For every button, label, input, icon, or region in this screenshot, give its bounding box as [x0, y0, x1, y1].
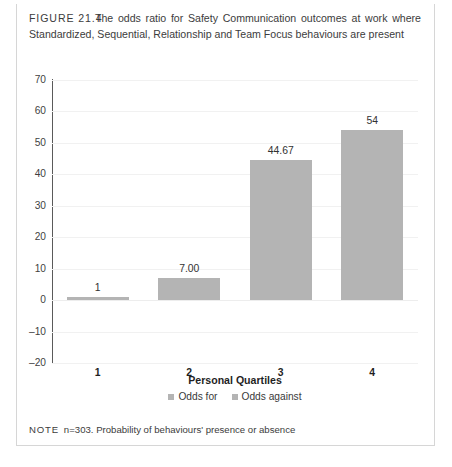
legend-item[interactable]: Odds for — [168, 391, 217, 402]
y-axis-tick-label: –10 — [12, 327, 46, 337]
x-axis-title: Personal Quartiles — [52, 374, 418, 386]
figure-frame-right-border — [434, 4, 435, 445]
gridline — [52, 111, 418, 112]
bar — [158, 278, 220, 300]
y-axis-tick-label: 30 — [12, 201, 46, 211]
plot-area: 17.0044.6754 — [52, 80, 418, 363]
legend-swatch-icon — [168, 394, 174, 400]
y-axis-tick-label: 10 — [12, 264, 46, 274]
legend-swatch-icon — [232, 394, 238, 400]
figure-note: NOTEn=303. Probability of behaviours' pr… — [29, 423, 421, 437]
bar — [341, 130, 403, 300]
legend-item[interactable]: Odds against — [232, 391, 302, 402]
gridline — [52, 80, 418, 81]
gridline — [52, 332, 418, 333]
gridline — [52, 363, 418, 364]
bar-value-label: 54 — [332, 116, 412, 126]
legend-label: Odds for — [178, 391, 217, 402]
y-axis-tick-label: 20 — [12, 232, 46, 242]
y-axis-tick-label: –20 — [12, 358, 46, 368]
y-axis-tick-label: 50 — [12, 138, 46, 148]
y-axis-tick-label: 60 — [12, 106, 46, 116]
y-axis-tick-labels: 706050403020100–10–20 — [10, 80, 46, 363]
y-axis-tick-label: 40 — [12, 169, 46, 179]
y-axis-tick-label: 70 — [12, 75, 46, 85]
bar-value-label: 7.00 — [149, 264, 229, 274]
legend-label: Odds against — [242, 391, 302, 402]
y-axis-tick-label: 0 — [12, 295, 46, 305]
bar — [250, 160, 312, 300]
bar-value-label: 1 — [58, 283, 138, 293]
bar — [67, 297, 129, 300]
chart-legend: Odds forOdds against — [52, 391, 418, 402]
figure-frame-bottom-border — [16, 445, 435, 446]
gridline — [52, 300, 418, 301]
bar-value-label: 44.67 — [241, 146, 321, 156]
figure-caption: The odds ratio for Safety Communication … — [29, 10, 421, 42]
note-label: NOTE — [29, 424, 59, 435]
caption-label: FIGURE 21.4 — [29, 10, 102, 26]
figure-container: The odds ratio for Safety Communication … — [0, 0, 452, 467]
note-text: n=303. Probability of behaviours' presen… — [64, 424, 295, 435]
